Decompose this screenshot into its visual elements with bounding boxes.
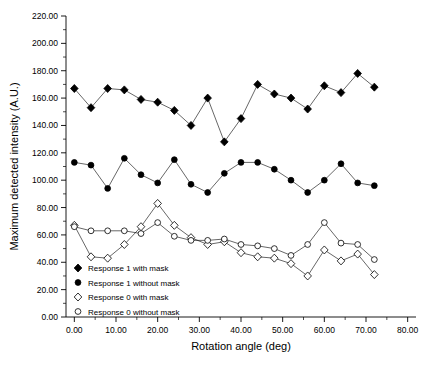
data-point-marker [155,180,161,186]
legend: Response 1 with maskResponse 1 without m… [74,264,180,317]
scatter-chart: 0.0010.0020.0030.0040.0050.0060.0070.008… [0,0,447,369]
y-tick-label: 80.00 [37,203,59,213]
data-point-marker [288,177,294,183]
data-point-marker [355,180,361,186]
data-point-marker [321,82,329,90]
data-point-marker [105,228,111,234]
data-point-marker [371,257,377,263]
x-tick-label: 0.00 [66,325,83,335]
data-point-marker [71,159,77,165]
data-point-marker [371,183,377,189]
data-point-marker [271,254,279,262]
data-point-marker [237,115,245,123]
data-point-marker [371,83,379,91]
data-point-marker [288,253,294,259]
data-point-marker [204,94,212,102]
data-point-marker [88,162,94,168]
data-point-marker [221,138,229,146]
data-point-marker [75,280,81,286]
data-point-marker [154,98,162,106]
data-point-marker [287,260,295,268]
data-point-marker [121,86,129,94]
data-point-marker [105,185,111,191]
data-point-marker [171,233,177,239]
data-point-marker [321,246,329,254]
data-point-marker [287,94,295,102]
series-0 [71,69,379,145]
data-point-marker [138,172,144,178]
data-point-marker [121,228,127,234]
x-tick-label: 10.00 [105,325,127,335]
y-tick-label: 100.00 [32,175,58,185]
data-point-marker [137,95,145,103]
y-tick-label: 40.00 [37,257,59,267]
data-point-marker [305,190,311,196]
x-axis-title: Rotation angle (deg) [191,340,291,352]
data-point-marker [171,221,179,229]
data-point-marker [171,157,177,163]
series-1 [71,155,377,195]
data-point-marker [255,159,261,165]
chart-container: 0.0010.0020.0030.0040.0050.0060.0070.008… [0,0,447,369]
legend-label-3: Response 0 without mask [88,308,181,317]
data-point-marker [121,155,127,161]
data-point-marker [221,236,227,242]
data-point-marker [337,257,345,265]
data-point-marker [188,181,194,187]
y-tick-label: 160.00 [32,93,58,103]
data-point-marker [304,272,312,280]
y-tick-label: 20.00 [37,285,59,295]
data-point-marker [304,105,312,113]
data-point-marker [155,220,161,226]
data-point-marker [154,199,162,207]
data-point-marker [254,80,262,88]
y-tick-label: 60.00 [37,230,59,240]
data-point-marker [321,220,327,226]
legend-label-2: Response 0 with mask [88,293,169,302]
y-tick-label: 140.00 [32,120,58,130]
x-tick-label: 20.00 [147,325,169,335]
data-point-marker [221,170,227,176]
data-point-marker [338,240,344,246]
x-tick-label: 40.00 [230,325,252,335]
data-point-marker [355,242,361,248]
data-point-marker [237,249,245,257]
y-tick-label: 180.00 [32,66,58,76]
legend-item-2: Response 0 with mask [74,293,169,302]
data-point-marker [188,237,194,243]
y-axis-title: Maximum detected intensity (A.U.) [8,82,20,250]
y-tick-label: 0.00 [41,312,58,322]
data-point-marker [104,254,112,262]
x-tick-label: 80.00 [397,325,419,335]
legend-item-3: Response 0 without mask [75,308,181,317]
data-point-marker [255,243,261,249]
series-3 [71,220,377,263]
y-tick-label: 220.00 [32,11,58,21]
x-tick-label: 50.00 [272,325,294,335]
data-point-marker [271,246,277,252]
x-tick-label: 30.00 [189,325,211,335]
data-point-marker [321,177,327,183]
legend-item-0: Response 1 with mask [74,264,169,273]
data-point-marker [87,253,95,261]
data-point-marker [88,228,94,234]
legend-label-1: Response 1 without mask [88,279,181,288]
y-tick-label: 120.00 [32,148,58,158]
data-point-marker [75,309,81,315]
x-tick-label: 70.00 [355,325,377,335]
data-point-marker [271,90,279,98]
data-point-marker [238,159,244,165]
data-point-marker [238,242,244,248]
data-point-marker [305,242,311,248]
legend-label-0: Response 1 with mask [88,264,169,273]
legend-item-1: Response 1 without mask [75,279,181,288]
data-point-marker [74,293,82,301]
data-point-marker [74,264,82,272]
data-point-marker [205,237,211,243]
data-point-marker [71,224,77,230]
data-point-marker [205,190,211,196]
data-point-marker [338,161,344,167]
data-point-marker [271,166,277,172]
y-tick-label: 200.00 [32,38,58,48]
series-line [74,73,374,141]
